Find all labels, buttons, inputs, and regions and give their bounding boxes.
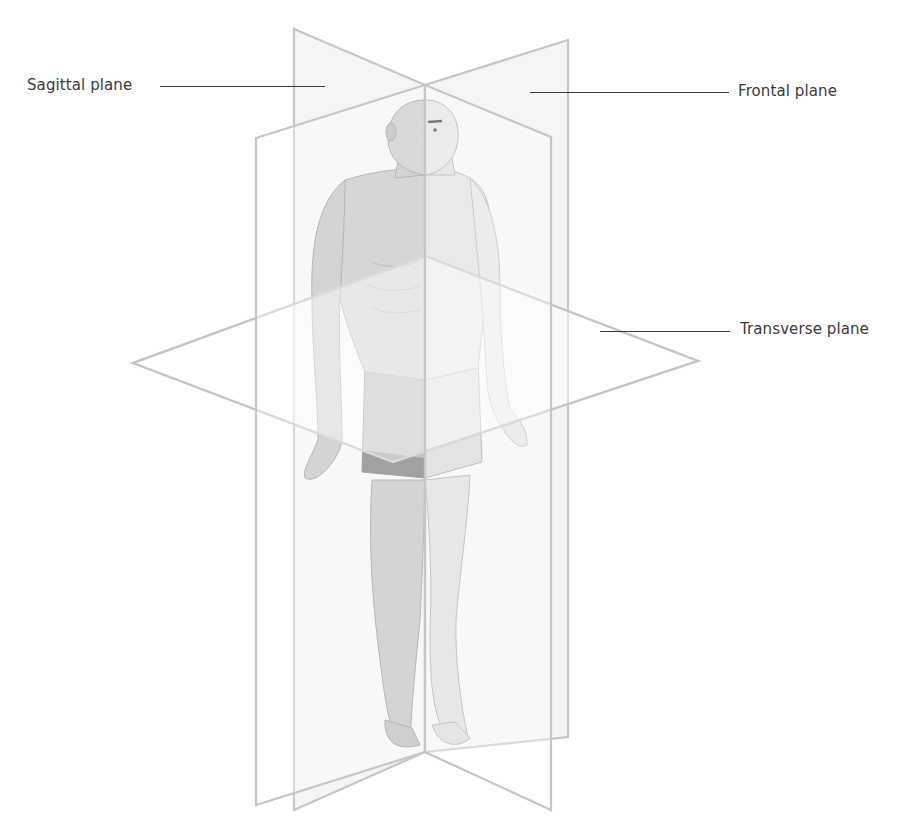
transverse-plane-leader-line <box>600 331 730 332</box>
frontal-plane-label: Frontal plane <box>738 84 837 99</box>
frontal-plane-front <box>256 85 425 805</box>
transverse-plane-label: Transverse plane <box>740 322 869 337</box>
sagittal-plane-leader-line <box>160 86 325 87</box>
anatomical-planes-diagram: Sagittal plane Frontal plane Transverse … <box>0 0 906 834</box>
diagram-canvas <box>0 0 906 834</box>
sagittal-plane-front <box>425 85 551 810</box>
sagittal-plane-label: Sagittal plane <box>27 78 132 93</box>
frontal-plane-leader-line <box>530 92 729 93</box>
